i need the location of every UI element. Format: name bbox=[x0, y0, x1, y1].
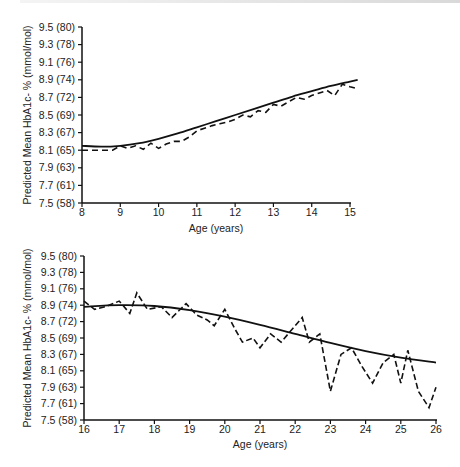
x-tick-label: 13 bbox=[268, 206, 280, 218]
bottom-fitted-line bbox=[84, 305, 436, 362]
y-tick-label: 9.1 (76) bbox=[41, 282, 77, 294]
top-x-axis-ticks: 89101112131415 bbox=[79, 203, 356, 218]
bottom-y-axis-title: Predicted Mean HbA1c- % (mmol/mol) bbox=[21, 248, 33, 427]
y-tick-label: 8.9 (74) bbox=[41, 299, 77, 311]
top-fitted-line bbox=[82, 80, 358, 147]
top-y-axis-ticks: 7.5 (58)7.7 (61)7.9 (63)8.1 (65)8.3 (67)… bbox=[39, 21, 82, 209]
bottom-observed-line bbox=[84, 293, 436, 408]
x-tick-label: 24 bbox=[360, 423, 372, 435]
x-tick-label: 21 bbox=[254, 423, 266, 435]
x-tick-label: 12 bbox=[229, 206, 241, 218]
y-tick-label: 8.3 (67) bbox=[41, 348, 77, 360]
bottom-chart: 7.5 (58)7.7 (61)7.9 (63)8.1 (65)8.3 (67)… bbox=[21, 248, 442, 450]
bottom-y-axis-ticks: 7.5 (58)7.7 (61)7.9 (63)8.1 (65)8.3 (67)… bbox=[41, 250, 84, 426]
x-tick-label: 16 bbox=[78, 423, 90, 435]
y-tick-label: 8.5 (69) bbox=[39, 109, 75, 121]
y-tick-label: 8.7 (72) bbox=[39, 91, 75, 103]
x-tick-label: 8 bbox=[79, 206, 85, 218]
x-tick-label: 9 bbox=[117, 206, 123, 218]
y-tick-label: 8.9 (74) bbox=[39, 73, 75, 85]
y-tick-label: 7.5 (58) bbox=[39, 197, 75, 209]
y-tick-label: 8.5 (69) bbox=[41, 332, 77, 344]
bottom-x-axis-title: Age (years) bbox=[233, 438, 287, 450]
y-tick-label: 7.7 (61) bbox=[39, 179, 75, 191]
x-tick-label: 25 bbox=[395, 423, 407, 435]
top-observed-line bbox=[82, 84, 358, 150]
y-tick-label: 7.5 (58) bbox=[41, 414, 77, 426]
x-tick-label: 22 bbox=[289, 423, 301, 435]
y-tick-label: 9.3 (78) bbox=[41, 266, 77, 278]
x-tick-label: 14 bbox=[306, 206, 318, 218]
y-tick-label: 9.1 (76) bbox=[39, 56, 75, 68]
figure: 7.5 (58)7.7 (61)7.9 (63)8.1 (65)8.3 (67)… bbox=[0, 0, 460, 467]
y-tick-label: 7.7 (61) bbox=[41, 397, 77, 409]
bottom-x-axis-ticks: 1617181920212223242526 bbox=[78, 420, 442, 435]
y-tick-label: 9.3 (78) bbox=[39, 38, 75, 50]
y-tick-label: 9.5 (80) bbox=[39, 21, 75, 33]
x-tick-label: 19 bbox=[184, 423, 196, 435]
x-tick-label: 11 bbox=[191, 206, 202, 218]
y-tick-label: 7.9 (63) bbox=[39, 161, 75, 173]
y-tick-label: 7.9 (63) bbox=[41, 381, 77, 393]
top-chart: 7.5 (58)7.7 (61)7.9 (63)8.1 (65)8.3 (67)… bbox=[21, 21, 358, 235]
x-tick-label: 20 bbox=[219, 423, 231, 435]
x-tick-label: 18 bbox=[149, 423, 161, 435]
top-x-axis-title: Age (years) bbox=[189, 222, 243, 234]
top-y-axis-title: Predicted Mean HbA1c- % (mmol/mol) bbox=[21, 25, 33, 204]
x-tick-label: 10 bbox=[153, 206, 165, 218]
x-tick-label: 26 bbox=[430, 423, 442, 435]
y-tick-label: 8.3 (67) bbox=[39, 126, 75, 138]
x-tick-label: 17 bbox=[113, 423, 125, 435]
x-tick-label: 15 bbox=[344, 206, 356, 218]
y-tick-label: 9.5 (80) bbox=[41, 250, 77, 262]
y-tick-label: 8.7 (72) bbox=[41, 315, 77, 327]
y-tick-label: 8.1 (65) bbox=[39, 144, 75, 156]
x-tick-label: 23 bbox=[325, 423, 337, 435]
y-tick-label: 8.1 (65) bbox=[41, 364, 77, 376]
